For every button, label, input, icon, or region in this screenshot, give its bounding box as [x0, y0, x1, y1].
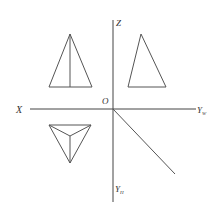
three-view-diagram: X O Z YW YH	[0, 0, 219, 210]
label-yh-sub: H	[119, 190, 124, 195]
label-o: O	[102, 96, 109, 106]
side-view-triangle	[128, 34, 166, 87]
axes	[30, 20, 196, 202]
axis-labels: X O Z YW YH	[15, 18, 207, 195]
top-view	[49, 125, 91, 163]
label-z: Z	[116, 18, 122, 28]
side-view	[128, 34, 166, 87]
label-yw: YW	[197, 105, 207, 116]
front-view	[49, 34, 92, 87]
label-x: X	[15, 104, 23, 115]
label-yh: YH	[115, 184, 124, 195]
label-yw-sub: W	[202, 111, 207, 116]
45-degree-line	[113, 109, 175, 174]
